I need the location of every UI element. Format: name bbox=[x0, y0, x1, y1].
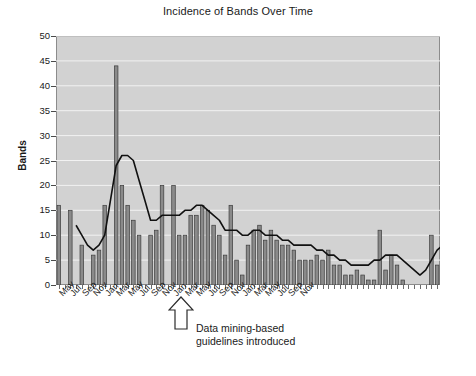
y-tick-mark bbox=[51, 235, 56, 236]
x-tick-mark bbox=[391, 285, 392, 289]
y-tick-mark bbox=[51, 111, 56, 112]
bar bbox=[80, 245, 84, 285]
bar bbox=[155, 230, 159, 285]
y-tick-label: 30 bbox=[14, 130, 50, 141]
bar bbox=[229, 205, 233, 285]
x-tick-mark bbox=[403, 285, 404, 289]
bar bbox=[258, 225, 262, 285]
bar bbox=[384, 270, 388, 285]
bar bbox=[349, 275, 353, 285]
y-tick-label: 20 bbox=[14, 179, 50, 190]
annotation-line-2: guidelines introduced bbox=[196, 335, 295, 348]
bar bbox=[390, 255, 394, 285]
bar bbox=[286, 245, 290, 285]
x-tick-mark bbox=[380, 285, 381, 289]
bar bbox=[69, 210, 73, 285]
y-tick-label: 15 bbox=[14, 204, 50, 215]
bar bbox=[200, 205, 204, 285]
y-tick-mark bbox=[51, 36, 56, 37]
x-tick-mark bbox=[437, 285, 438, 289]
bar bbox=[177, 235, 181, 285]
chart-container: Incidence of Bands Over Time Bands Data … bbox=[0, 0, 476, 376]
y-tick-mark bbox=[51, 260, 56, 261]
x-tick-mark bbox=[414, 285, 415, 289]
x-tick-mark bbox=[328, 285, 329, 289]
y-tick-label: 40 bbox=[14, 80, 50, 91]
up-arrow-icon bbox=[168, 296, 194, 330]
x-tick-mark bbox=[363, 285, 364, 289]
bar bbox=[275, 240, 279, 285]
bar bbox=[212, 225, 216, 285]
annotation-line-1: Data mining-based bbox=[196, 322, 295, 335]
bar bbox=[189, 215, 193, 285]
bar bbox=[183, 235, 187, 285]
x-tick-mark bbox=[317, 285, 318, 289]
y-tick-label: 5 bbox=[14, 254, 50, 265]
x-tick-mark bbox=[431, 285, 432, 289]
bar bbox=[132, 220, 136, 285]
y-tick-label: 25 bbox=[14, 155, 50, 166]
bar bbox=[120, 185, 124, 285]
bar bbox=[103, 205, 107, 285]
bar bbox=[263, 240, 267, 285]
bar bbox=[160, 185, 164, 285]
bar bbox=[269, 230, 273, 285]
bar bbox=[218, 235, 222, 285]
x-tick-mark bbox=[351, 285, 352, 289]
bar bbox=[338, 265, 342, 285]
x-tick-mark bbox=[397, 285, 398, 289]
bar bbox=[344, 275, 348, 285]
bar bbox=[321, 260, 325, 285]
chart-canvas bbox=[56, 36, 440, 285]
bar bbox=[246, 245, 250, 285]
bar bbox=[315, 255, 319, 285]
bar bbox=[361, 275, 365, 285]
bar bbox=[97, 250, 101, 285]
annotation-text: Data mining-based guidelines introduced bbox=[196, 322, 295, 347]
bar bbox=[332, 265, 336, 285]
bar bbox=[395, 265, 399, 285]
x-tick-mark bbox=[345, 285, 346, 289]
bar bbox=[57, 205, 61, 285]
bar bbox=[195, 215, 199, 285]
y-tick-mark bbox=[51, 136, 56, 137]
bar bbox=[355, 270, 359, 285]
x-tick-mark bbox=[334, 285, 335, 289]
bar bbox=[172, 185, 176, 285]
x-tick-mark bbox=[420, 285, 421, 289]
x-tick-mark bbox=[426, 285, 427, 289]
y-tick-mark bbox=[51, 210, 56, 211]
y-tick-mark bbox=[51, 161, 56, 162]
x-tick-mark bbox=[323, 285, 324, 289]
y-tick-label: 45 bbox=[14, 55, 50, 66]
plot-area bbox=[56, 36, 440, 285]
bar bbox=[149, 235, 153, 285]
bar bbox=[206, 210, 210, 285]
y-tick-label: 0 bbox=[14, 279, 50, 290]
bar bbox=[137, 235, 141, 285]
y-tick-mark bbox=[51, 86, 56, 87]
x-tick-mark bbox=[357, 285, 358, 289]
bar bbox=[435, 265, 439, 285]
y-tick-mark bbox=[51, 185, 56, 186]
x-tick-mark bbox=[408, 285, 409, 289]
bar bbox=[292, 250, 296, 285]
x-tick-mark bbox=[386, 285, 387, 289]
x-tick-mark bbox=[340, 285, 341, 289]
y-tick-mark bbox=[51, 61, 56, 62]
y-tick-label: 50 bbox=[14, 30, 50, 41]
bar bbox=[281, 245, 285, 285]
y-tick-label: 35 bbox=[14, 105, 50, 116]
y-tick-mark bbox=[51, 285, 56, 286]
chart-title: Incidence of Bands Over Time bbox=[0, 5, 476, 17]
x-tick-mark bbox=[368, 285, 369, 289]
y-tick-label: 10 bbox=[14, 229, 50, 240]
x-tick-mark bbox=[374, 285, 375, 289]
bar bbox=[378, 230, 382, 285]
bar bbox=[252, 230, 256, 285]
bar bbox=[126, 205, 130, 285]
